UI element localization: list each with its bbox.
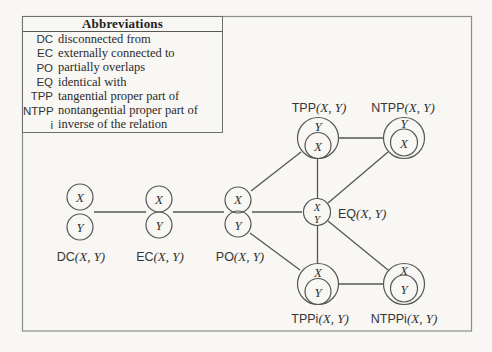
abbrev-code: DC bbox=[23, 33, 53, 45]
tppi-rel-name: TPPi bbox=[291, 312, 318, 326]
abbrev-code: NTPP bbox=[23, 105, 53, 117]
po-rel-args: (X, Y) bbox=[234, 249, 264, 264]
abbrev-code: i bbox=[23, 119, 53, 131]
abbreviations-table: Abbreviations DC disconnected from EC ex… bbox=[22, 16, 223, 133]
dc-letter-x: X bbox=[76, 191, 84, 204]
abbrev-meaning: identical with bbox=[58, 75, 126, 90]
ec-letter-y: Y bbox=[155, 219, 162, 232]
abbrev-code: EQ bbox=[23, 76, 53, 88]
tppi-letter-y: Y bbox=[314, 286, 321, 299]
abbrev-row-ntpp: NTPP nontangential proper part of bbox=[23, 103, 222, 117]
edge-po-tpp bbox=[251, 152, 301, 191]
dc-letter-y: Y bbox=[76, 221, 83, 234]
ntpp-rel-args: (X, Y) bbox=[405, 100, 435, 115]
edge-eq-ntppi bbox=[328, 221, 388, 270]
node-label-tpp: TPP(X, Y) bbox=[292, 100, 347, 115]
ntppi-rel-name: NTPPi bbox=[371, 312, 407, 326]
ntpp-letter-x: X bbox=[400, 137, 408, 150]
abbreviations-title: Abbreviations bbox=[23, 17, 222, 32]
tppi-letter-x: X bbox=[314, 266, 322, 279]
po-letter-x: X bbox=[234, 193, 242, 206]
abbrev-row-dc: DC disconnected from bbox=[23, 32, 222, 46]
abbrev-row-po: PO partially overlaps bbox=[23, 61, 222, 75]
abbrev-code: PO bbox=[23, 62, 53, 74]
tpp-letter-x: X bbox=[314, 140, 322, 153]
ntpp-letter-y: Y bbox=[400, 117, 407, 130]
abbrev-code: EC bbox=[23, 47, 53, 59]
ntppi-rel-args: (X, Y) bbox=[407, 311, 437, 326]
tpp-letter-y: Y bbox=[314, 120, 321, 133]
ntpp-rel-name: NTPP bbox=[371, 101, 404, 115]
node-label-ntppi: NTPPi(X, Y) bbox=[371, 311, 437, 326]
abbrev-meaning: partially overlaps bbox=[58, 60, 145, 75]
tpp-rel-args: (X, Y) bbox=[316, 100, 346, 115]
po-rel-name: PO bbox=[216, 250, 234, 264]
abbrev-meaning: nontangential proper part of bbox=[58, 103, 198, 118]
node-label-ec: EC(X, Y) bbox=[136, 249, 184, 264]
edge-eq-ntpp bbox=[328, 152, 388, 203]
ec-letter-x: X bbox=[155, 193, 163, 206]
abbrev-meaning: tangential proper part of bbox=[58, 89, 179, 104]
abbrev-row-i: i inverse of the relation bbox=[23, 118, 222, 132]
eq-letter-x: X bbox=[314, 201, 321, 212]
abbrev-meaning: disconnected from bbox=[58, 32, 151, 47]
eq-rel-name: EQ bbox=[338, 206, 356, 220]
tppi-rel-args: (X, Y) bbox=[318, 311, 348, 326]
dc-rel-args: (X, Y) bbox=[75, 249, 105, 264]
tpp-rel-name: TPP bbox=[292, 101, 316, 115]
ec-rel-name: EC bbox=[136, 250, 153, 264]
eq-rel-args: (X, Y) bbox=[356, 205, 386, 220]
dc-rel-name: DC bbox=[57, 250, 75, 264]
ntppi-letter-y: Y bbox=[400, 283, 407, 296]
eq-letter-y: Y bbox=[314, 213, 320, 224]
abbrev-code: TPP bbox=[23, 90, 53, 102]
abbrev-row-tpp: TPP tangential proper part of bbox=[23, 89, 222, 103]
abbrev-row-eq: EQ identical with bbox=[23, 75, 222, 89]
node-label-dc: DC(X, Y) bbox=[57, 249, 105, 264]
node-label-eq: EQ(X, Y) bbox=[338, 205, 386, 220]
node-label-ntpp: NTPP(X, Y) bbox=[371, 100, 435, 115]
node-label-po: PO(X, Y) bbox=[216, 249, 264, 264]
abbrev-meaning: externally connected to bbox=[58, 46, 175, 61]
ec-rel-args: (X, Y) bbox=[154, 249, 184, 264]
rcc8-figure: Abbreviations DC disconnected from EC ex… bbox=[0, 0, 492, 352]
abbrev-row-ec: EC externally connected to bbox=[23, 46, 222, 60]
po-letter-y: Y bbox=[234, 219, 241, 232]
node-label-tppi: TPPi(X, Y) bbox=[291, 311, 348, 326]
ntppi-letter-x: X bbox=[400, 264, 408, 277]
abbrev-meaning: inverse of the relation bbox=[58, 117, 167, 132]
